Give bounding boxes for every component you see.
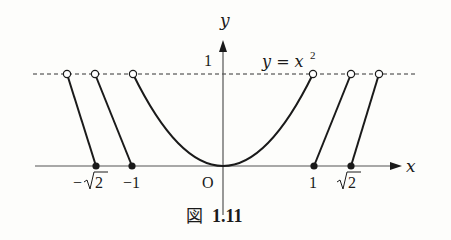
segment-pos-sqrt2 bbox=[351, 74, 379, 166]
origin-label: O bbox=[202, 174, 214, 191]
tick-pos1: 1 bbox=[309, 174, 317, 191]
y-tick-1: 1 bbox=[204, 52, 212, 69]
y-axis-label: y bbox=[219, 10, 230, 30]
figure-canvas: y x 1 O y = x 2 − 2 −1 1 2 図 1.11 bbox=[0, 0, 451, 240]
segment-neg1 bbox=[95, 74, 132, 166]
curve-label: y = x bbox=[261, 52, 304, 71]
open-point-icon bbox=[63, 70, 70, 77]
x-axis-arrow-icon bbox=[390, 162, 402, 170]
x-axis-label: x bbox=[406, 156, 416, 176]
caption-prefix: 図 bbox=[186, 206, 203, 226]
curve-label-exponent: 2 bbox=[310, 49, 316, 61]
tick-neg1: −1 bbox=[123, 174, 140, 191]
filled-point-icon bbox=[310, 162, 317, 169]
open-point-icon bbox=[375, 70, 382, 77]
tick-neg-sqrt2-radicand: 2 bbox=[95, 174, 103, 191]
open-point-icon bbox=[91, 70, 98, 77]
segment-pos1 bbox=[314, 74, 351, 166]
open-point-icon bbox=[309, 70, 316, 77]
open-point-icon bbox=[347, 70, 354, 77]
tick-neg-sqrt2-sign: − bbox=[73, 174, 82, 191]
open-point-icon bbox=[129, 70, 136, 77]
y-axis-arrow-icon bbox=[219, 40, 227, 52]
caption-number: 1.11 bbox=[212, 206, 243, 226]
filled-point-icon bbox=[347, 162, 354, 169]
filled-point-icon bbox=[92, 162, 99, 169]
tick-pos-sqrt2-radicand: 2 bbox=[348, 174, 356, 191]
filled-point-icon bbox=[128, 162, 135, 169]
segment-neg-sqrt2 bbox=[67, 74, 96, 166]
